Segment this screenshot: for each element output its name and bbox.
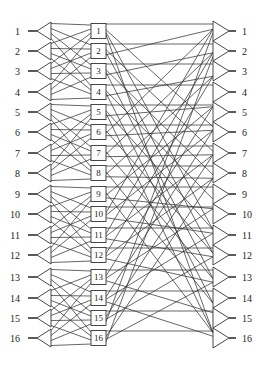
output-combiner-12: 12 xyxy=(213,245,252,265)
input-splitter-15: 15 xyxy=(10,309,51,327)
input-label: 8 xyxy=(15,168,20,179)
output-label: 6 xyxy=(242,127,247,138)
input-label: 14 xyxy=(10,293,20,304)
box-label: 5 xyxy=(96,107,101,117)
combiner-triangle-icon xyxy=(213,225,229,245)
box-label: 13 xyxy=(94,272,104,282)
output-label: 16 xyxy=(242,333,252,344)
splitter-triangle-icon xyxy=(37,226,51,244)
middle-box-16: 16 xyxy=(91,331,106,346)
output-combiner-5: 5 xyxy=(213,102,247,122)
input-label: 1 xyxy=(15,26,20,37)
splitter-triangle-icon xyxy=(37,329,51,347)
output-combiner-8: 8 xyxy=(213,163,247,183)
middle-stage-boxes: 12345678910111213141516 xyxy=(91,24,106,346)
input-to-middle-connections xyxy=(51,24,91,346)
input-label: 12 xyxy=(10,250,20,261)
box-label: 2 xyxy=(96,46,101,56)
middle-box-8: 8 xyxy=(91,166,106,181)
box-label: 16 xyxy=(94,333,104,343)
middle-box-15: 15 xyxy=(91,311,106,326)
input-label: 3 xyxy=(15,66,20,77)
middle-box-3: 3 xyxy=(91,64,106,79)
output-label: 15 xyxy=(242,313,252,324)
box-label: 10 xyxy=(94,209,104,219)
output-label: 12 xyxy=(242,250,252,261)
combiner-triangle-icon xyxy=(213,102,229,122)
middle-box-13: 13 xyxy=(91,270,106,285)
output-label: 8 xyxy=(242,168,247,179)
input-splitter-10: 10 xyxy=(10,205,51,223)
middle-box-4: 4 xyxy=(91,85,106,100)
box-label: 7 xyxy=(96,148,101,158)
output-label: 9 xyxy=(242,189,247,200)
output-combiner-2: 2 xyxy=(213,41,247,61)
box-label: 1 xyxy=(96,26,101,36)
input-splitter-9: 9 xyxy=(15,185,51,203)
output-label: 11 xyxy=(242,230,252,241)
input-splitter-6: 6 xyxy=(15,123,51,141)
output-label: 13 xyxy=(242,272,252,283)
output-label: 7 xyxy=(242,148,247,159)
combiner-triangle-icon xyxy=(213,204,229,224)
box-label: 8 xyxy=(96,168,101,178)
input-label: 6 xyxy=(15,127,20,138)
splitter-triangle-icon xyxy=(37,185,51,203)
box-label: 6 xyxy=(96,127,101,137)
output-label: 1 xyxy=(242,26,247,37)
input-splitter-13: 13 xyxy=(10,268,51,286)
combiner-triangle-icon xyxy=(213,184,229,204)
output-label: 14 xyxy=(242,293,252,304)
output-combiner-3: 3 xyxy=(213,61,247,81)
input-label: 9 xyxy=(15,189,20,200)
input-splitter-7: 7 xyxy=(15,144,51,162)
splitter-triangle-icon xyxy=(37,309,51,327)
box-label: 11 xyxy=(94,230,103,240)
output-combiner-15: 15 xyxy=(213,308,252,328)
combiner-triangle-icon xyxy=(213,122,229,142)
input-label: 11 xyxy=(10,230,20,241)
input-splitter-1: 1 xyxy=(15,22,51,40)
input-splitter-3: 3 xyxy=(15,62,51,80)
combiner-triangle-icon xyxy=(213,21,229,41)
input-splitter-12: 12 xyxy=(10,246,51,264)
output-combiner-14: 14 xyxy=(213,288,252,308)
input-label: 15 xyxy=(10,313,20,324)
combiner-triangle-icon xyxy=(213,245,229,265)
input-splitter-2: 2 xyxy=(15,42,51,60)
splitter-triangle-icon xyxy=(37,103,51,121)
combiner-triangle-icon xyxy=(213,163,229,183)
middle-box-14: 14 xyxy=(91,291,106,306)
output-label: 2 xyxy=(242,46,247,57)
output-combiner-10: 10 xyxy=(213,204,252,224)
output-combiner-7: 7 xyxy=(213,143,247,163)
input-splitter-11: 11 xyxy=(10,226,51,244)
interconnection-network-diagram: 12345678910111213141516 1234567891011121… xyxy=(0,0,260,367)
splitter-triangle-icon xyxy=(37,42,51,60)
middle-to-output-connections xyxy=(106,24,213,342)
splitter-triangle-icon xyxy=(37,164,51,182)
box-label: 12 xyxy=(94,250,103,260)
output-combiner-9: 9 xyxy=(213,184,247,204)
splitter-triangle-icon xyxy=(37,268,51,286)
middle-box-12: 12 xyxy=(91,248,106,263)
combiner-triangle-icon xyxy=(213,143,229,163)
splitter-triangle-icon xyxy=(37,144,51,162)
input-splitter-5: 5 xyxy=(15,103,51,121)
box-label: 9 xyxy=(96,189,101,199)
input-splitters: 12345678910111213141516 xyxy=(10,22,51,347)
combiner-triangle-icon xyxy=(213,82,229,102)
output-combiners: 12345678910111213141516 xyxy=(213,21,252,348)
combiner-triangle-icon xyxy=(213,267,229,287)
box-label: 14 xyxy=(94,293,104,303)
box-label: 4 xyxy=(96,87,101,97)
middle-box-9: 9 xyxy=(91,187,106,202)
input-label: 7 xyxy=(15,148,20,159)
input-label: 16 xyxy=(10,333,20,344)
combiner-triangle-icon xyxy=(213,61,229,81)
input-splitter-8: 8 xyxy=(15,164,51,182)
combiner-triangle-icon xyxy=(213,308,229,328)
splitter-triangle-icon xyxy=(37,83,51,101)
splitter-triangle-icon xyxy=(37,22,51,40)
middle-box-7: 7 xyxy=(91,146,106,161)
